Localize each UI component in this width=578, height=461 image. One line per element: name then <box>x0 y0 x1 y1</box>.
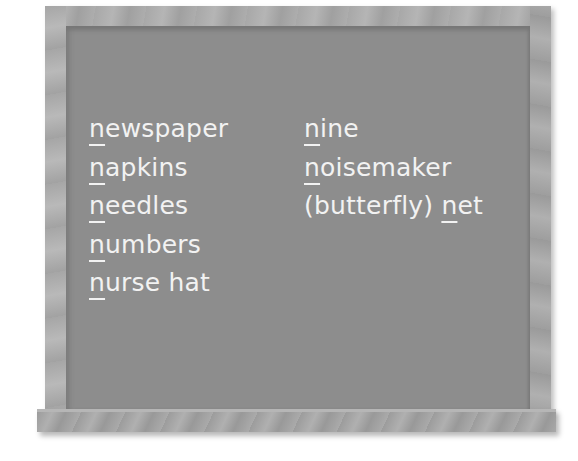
underlined-initial: n <box>441 191 457 220</box>
underlined-initial: n <box>89 230 105 259</box>
word-butterfly-net: (butterfly) net <box>304 187 483 226</box>
word-newspaper: newspaper <box>89 110 228 149</box>
word-list-right: nine noisemaker (butterfly) net <box>304 110 483 226</box>
underlined-initial: n <box>304 114 320 143</box>
word-napkins: napkins <box>89 149 228 188</box>
underlined-initial: n <box>304 153 320 182</box>
word-numbers: numbers <box>89 226 228 265</box>
underlined-initial: n <box>89 153 105 182</box>
word-noisemaker: noisemaker <box>304 149 483 188</box>
frame-right-rail <box>530 6 551 416</box>
word-nurse-hat: nurse hat <box>89 264 228 303</box>
chalk-ledge <box>37 409 556 432</box>
word-nine: nine <box>304 110 483 149</box>
underlined-initial: n <box>89 114 105 143</box>
underlined-initial: n <box>89 268 105 297</box>
word-list-left: newspaper napkins needles numbers nurse … <box>89 110 228 303</box>
underlined-initial: n <box>89 191 105 220</box>
frame-top-rail <box>45 6 551 26</box>
word-needles: needles <box>89 187 228 226</box>
frame-left-rail <box>45 6 66 416</box>
